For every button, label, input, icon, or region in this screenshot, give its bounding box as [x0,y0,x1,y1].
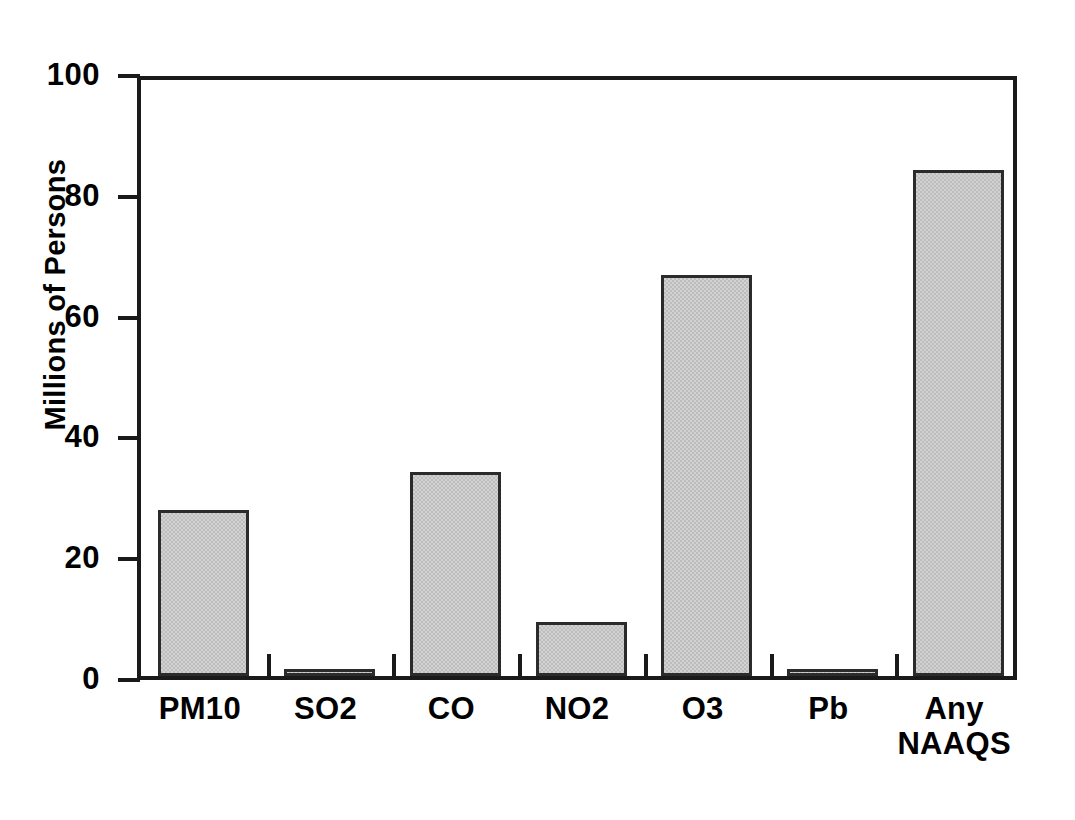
x-axis-tick [518,654,522,676]
x-axis-label: SO2 [263,692,389,727]
bar-no2 [536,622,627,676]
bar-chart: Millions of Persons 020406080100 PM10SO2… [0,0,1075,820]
bar-any-naaqs [913,170,1004,676]
x-axis-label: Any NAAQS [891,692,1017,761]
x-axis-tick [392,654,396,676]
bar-pm10 [158,510,249,676]
x-axis-tick [895,654,899,676]
bar-so2 [284,669,375,676]
plot-area [137,76,1017,680]
y-axis-tick-label: 40 [22,421,100,452]
y-axis-tick-label: 100 [22,59,100,90]
x-axis-label: CO [388,692,514,727]
x-axis-label: O3 [640,692,766,727]
y-axis-tick-label: 0 [22,663,100,694]
y-axis-tick-label: 60 [22,301,100,332]
x-axis-label: Pb [766,692,892,727]
bar-o3 [661,275,752,676]
x-axis-tick [770,654,774,676]
bar-pb [787,669,878,676]
x-axis-tick [267,654,271,676]
y-axis-tick-label: 80 [22,180,100,211]
bar-co [410,472,501,676]
x-axis-label: NO2 [514,692,640,727]
x-axis-label: PM10 [137,692,263,727]
y-axis-tick-label: 20 [22,542,100,573]
x-axis-tick [644,654,648,676]
